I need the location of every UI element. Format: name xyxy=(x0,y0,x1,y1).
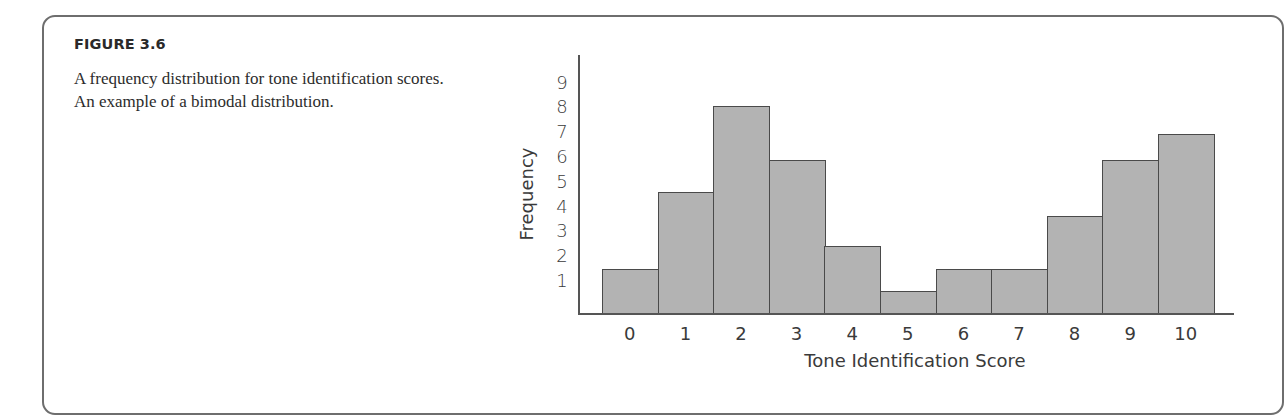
bar-9 xyxy=(1102,160,1159,314)
y-tick-label: 3 xyxy=(552,222,572,240)
bar-0 xyxy=(602,269,659,314)
bar-10 xyxy=(1158,134,1215,314)
y-tick-label: 1 xyxy=(552,272,572,290)
x-tick-label: 3 xyxy=(777,324,817,344)
y-tick-label: 5 xyxy=(552,173,572,191)
bar-3 xyxy=(769,160,826,314)
x-tick-label: 8 xyxy=(1055,324,1095,344)
x-tick-label: 4 xyxy=(832,324,872,344)
x-tick-label: 2 xyxy=(721,324,761,344)
y-tick-label: 6 xyxy=(552,148,572,166)
bar-6 xyxy=(936,269,993,314)
y-tick-label: 9 xyxy=(552,74,572,92)
x-tick-label: 0 xyxy=(610,324,650,344)
x-tick-label: 5 xyxy=(888,324,928,344)
x-tick-label: 9 xyxy=(1110,324,1150,344)
x-tick-label: 1 xyxy=(665,324,705,344)
x-axis-title: Tone Identification Score xyxy=(600,350,1230,372)
x-tick-label: 10 xyxy=(1166,324,1206,344)
y-axis-line xyxy=(578,55,580,315)
x-axis-line xyxy=(578,313,1234,315)
y-axis-title: Frequency xyxy=(517,94,537,294)
bar-5 xyxy=(880,291,937,314)
y-tick-label: 7 xyxy=(552,123,572,141)
bar-2 xyxy=(713,106,770,314)
y-tick-label: 2 xyxy=(552,247,572,265)
y-tick-label: 8 xyxy=(552,98,572,116)
bar-1 xyxy=(658,192,715,314)
y-tick-label: 4 xyxy=(552,198,572,216)
x-tick-label: 7 xyxy=(999,324,1039,344)
x-tick-label: 6 xyxy=(943,324,983,344)
bar-4 xyxy=(824,246,881,314)
bar-8 xyxy=(1047,216,1104,314)
bar-7 xyxy=(991,269,1048,314)
